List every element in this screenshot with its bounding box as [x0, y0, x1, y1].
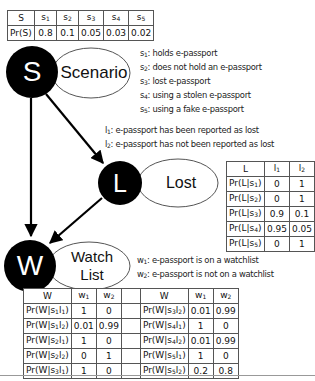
watchlist-node-symbol: W — [6, 249, 54, 283]
row-label: Pr(W|s1l2) — [24, 319, 72, 334]
header-cell: s5 — [129, 11, 154, 26]
legend-item: s3: lost e-passport — [140, 75, 262, 89]
row-label: Pr(L|s5) — [227, 237, 265, 252]
row-label: Pr(W|s5l2) — [140, 364, 188, 379]
value-cell: 0 — [96, 334, 121, 349]
table-header-row: S s1 s2 s3 s4 s5 — [8, 11, 154, 26]
legend-item: s2: does not hold an e-passport — [140, 61, 262, 75]
value-cell: 0.05 — [79, 26, 104, 41]
row-label: Pr(W|s4l1) — [140, 319, 188, 334]
legend-item: s5: using a fake e-passport — [140, 103, 262, 117]
value-cell: 0.1 — [289, 207, 314, 222]
row-label: Pr(W|s5l1) — [140, 349, 188, 364]
row-label: Pr(L|s3) — [227, 207, 265, 222]
value-cell: 0 — [71, 349, 96, 364]
header-cell: W — [24, 289, 72, 304]
table-row: Pr(S) 0.8 0.1 0.05 0.03 0.02 — [8, 26, 154, 41]
watchlist-label-line1: Watch — [52, 248, 132, 266]
spacer-cell — [121, 334, 140, 349]
value-cell: 1 — [188, 319, 213, 334]
header-cell: s1 — [35, 11, 57, 26]
value-cell: 1 — [289, 192, 314, 207]
prior-table-scenario: S s1 s2 s3 s4 s5 Pr(S) 0.8 0.1 0.05 0.03… — [7, 10, 154, 41]
header-cell: L — [227, 162, 265, 177]
lost-label: Lost — [146, 172, 216, 194]
edge-s-to-l — [46, 94, 103, 163]
scenario-label: Scenario — [54, 62, 134, 84]
header-cell: l2 — [289, 162, 314, 177]
value-cell: 0 — [96, 304, 121, 319]
lost-cpt-table: L l1 l2 Pr(L|s1) 0 1 Pr(L|s2) 0 1 Pr(L|s… — [226, 161, 315, 252]
value-cell: 1 — [71, 304, 96, 319]
row-label: Pr(L|s1) — [227, 177, 265, 192]
value-cell: 0.8 — [213, 364, 238, 379]
bottom-divider — [0, 375, 315, 376]
row-label: Pr(W|s3l1) — [24, 364, 72, 379]
value-cell: 1 — [71, 334, 96, 349]
row-label: Pr(W|s3l2) — [140, 304, 188, 319]
legend-item: l1: e-passport has been reported as lost — [105, 124, 274, 138]
table-row: Pr(W|s1l2) 0.01 0.99 Pr(W|s4l1) 1 0 — [24, 319, 239, 334]
table-row: Pr(L|s2) 0 1 — [227, 192, 315, 207]
header-cell: s3 — [79, 11, 104, 26]
value-cell: 1 — [96, 349, 121, 364]
row-label: Pr(S) — [8, 26, 35, 41]
legend-item: l2: e-passport has not been reported as … — [105, 138, 274, 152]
table-row: Pr(L|s1) 0 1 — [227, 177, 315, 192]
lost-legend: l1: e-passport has been reported as lost… — [105, 124, 274, 152]
header-cell: S — [8, 11, 35, 26]
value-cell: 0.2 — [188, 364, 213, 379]
header-cell: l1 — [264, 162, 289, 177]
header-cell: W — [140, 289, 188, 304]
watchlist-label-line2: List — [52, 266, 132, 284]
value-cell: 0 — [264, 237, 289, 252]
value-cell: 0 — [213, 349, 238, 364]
lost-node-symbol: L — [100, 168, 140, 198]
spacer-cell — [121, 289, 140, 304]
table-row: Pr(L|s4) 0.95 0.05 — [227, 222, 315, 237]
table-row: Pr(W|s1l1) 1 0 Pr(W|s3l2) 0.01 0.99 — [24, 304, 239, 319]
header-cell: s4 — [104, 11, 129, 26]
scenario-node-symbol: S — [10, 55, 54, 89]
value-cell: 0 — [264, 177, 289, 192]
watchlist-label: Watch List — [52, 248, 132, 284]
value-cell: 1 — [289, 237, 314, 252]
value-cell: 1 — [188, 349, 213, 364]
value-cell: 1 — [289, 177, 314, 192]
legend-item: w2: e-passport is not on a watchlist — [137, 268, 274, 282]
legend-item: s1: holds e-passport — [140, 47, 262, 61]
value-cell: 0.03 — [104, 26, 129, 41]
row-label: Pr(W|s4l2) — [140, 334, 188, 349]
legend-item: w1: e-passport is on a watchlist — [137, 254, 274, 268]
value-cell: 0.01 — [71, 319, 96, 334]
header-cell: w2 — [213, 289, 238, 304]
edge-l-to-w — [50, 198, 102, 243]
value-cell: 0 — [96, 364, 121, 379]
table-header-row: W w1 w2 W w1 w2 — [24, 289, 239, 304]
table-row: Pr(W|s2l1) 1 0 Pr(W|s4l2) 0.01 0.99 — [24, 334, 239, 349]
value-cell: 1 — [71, 364, 96, 379]
value-cell: 0 — [264, 192, 289, 207]
spacer-cell — [121, 364, 140, 379]
row-label: Pr(W|s2l2) — [24, 349, 72, 364]
header-cell: s2 — [57, 11, 79, 26]
table-row: Pr(W|s2l2) 0 1 Pr(W|s5l1) 1 0 — [24, 349, 239, 364]
header-cell: w1 — [71, 289, 96, 304]
watch-cpt-table: W w1 w2 W w1 w2 Pr(W|s1l1) 1 0 Pr(W|s3l2… — [23, 288, 239, 379]
value-cell: 0.01 — [188, 304, 213, 319]
value-cell: 0.99 — [96, 319, 121, 334]
table-header-row: L l1 l2 — [227, 162, 315, 177]
value-cell: 0.99 — [213, 334, 238, 349]
row-label: Pr(L|s4) — [227, 222, 265, 237]
spacer-cell — [121, 304, 140, 319]
table-row: Pr(L|s3) 0.9 0.1 — [227, 207, 315, 222]
row-label: Pr(L|s2) — [227, 192, 265, 207]
value-cell: 0.02 — [129, 26, 154, 41]
legend-item: s4: using a stolen e-passport — [140, 89, 262, 103]
scenario-legend: s1: holds e-passport s2: does not hold a… — [140, 47, 262, 117]
value-cell: 0.9 — [264, 207, 289, 222]
value-cell: 0 — [213, 319, 238, 334]
value-cell: 0.8 — [35, 26, 57, 41]
value-cell: 0.99 — [213, 304, 238, 319]
header-cell: w2 — [96, 289, 121, 304]
